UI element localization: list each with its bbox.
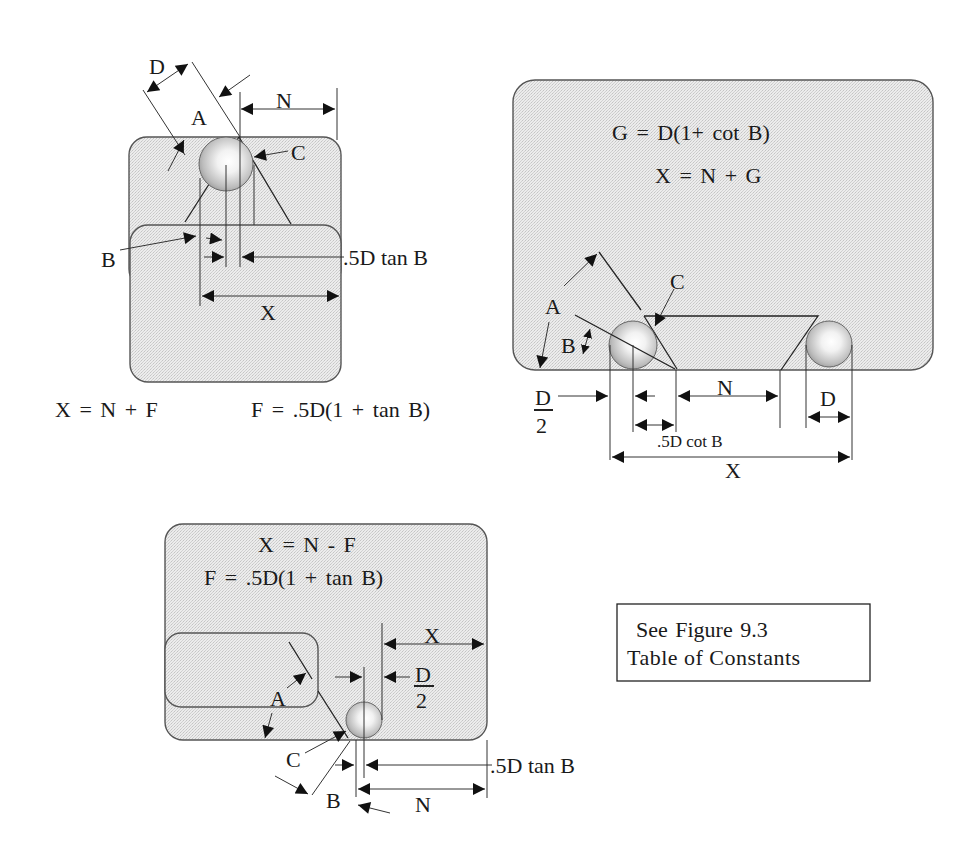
b-arrow [275, 776, 308, 794]
formula-f-eq: F = .5D(1 + tan B) [204, 565, 383, 590]
inner-pocket [165, 633, 318, 707]
label-d-over-2-den: 2 [416, 688, 427, 713]
label-c: C [286, 747, 301, 772]
measuring-ball-right [806, 321, 852, 367]
label-d-over-2-num: D [535, 385, 551, 410]
label-c: C [670, 269, 685, 294]
label-x: X [725, 458, 741, 483]
label-n: N [717, 375, 733, 400]
lower-workpiece [130, 225, 341, 382]
label-a: A [191, 105, 207, 130]
note-box: See Figure 9.3 Table of Constants [617, 604, 870, 681]
label-a: A [270, 686, 286, 711]
label-d: D [820, 386, 836, 411]
formula-f-eq: F = .5D(1 + tan B) [251, 397, 430, 422]
label-a: A [545, 294, 561, 319]
label-b: B [326, 788, 341, 813]
formula-g-eq: G = D(1+ cot B) [612, 120, 770, 145]
b-leader [312, 741, 350, 795]
label-n: N [415, 792, 431, 817]
formula-x-eq-n-plus-f: X = N + F [55, 397, 158, 422]
note-line-2: Table of Constants [627, 645, 801, 670]
label-half-d-tan-b: .5D tan B [343, 245, 428, 270]
diagram-dovetail-step: X = N - F F = .5D(1 + tan B) X D 2 A C B [165, 524, 575, 817]
dovetail-measurement-figure: D A N C B .5D tan B X X = N + F F = .5D(… [0, 0, 976, 864]
label-n: N [276, 88, 292, 113]
diagram-dovetail-internal: G = D(1+ cot B) X = N + G A B C D 2 [513, 80, 933, 483]
label-d-over-2-num: D [415, 662, 431, 687]
label-half-d-cot-b: .5D cot B [657, 432, 723, 451]
label-b: B [101, 247, 116, 272]
label-x: X [424, 623, 440, 648]
label-half-d-tan-b: .5D tan B [490, 753, 575, 778]
label-x: X [260, 300, 276, 325]
label-b: B [561, 333, 576, 358]
diagram-dovetail-external: D A N C B .5D tan B X X = N + F F = .5D(… [55, 54, 430, 422]
label-d: D [149, 54, 165, 79]
formula-x-eq-n-minus-f: X = N - F [258, 532, 356, 557]
note-line-1: See Figure 9.3 [636, 617, 768, 642]
label-d-over-2-den: 2 [536, 413, 547, 438]
label-c: C [291, 140, 306, 165]
formula-x-eq-n-plus-g: X = N + G [655, 163, 762, 188]
b-lower-arrow [358, 805, 390, 813]
a-arrow-upper [219, 75, 250, 97]
